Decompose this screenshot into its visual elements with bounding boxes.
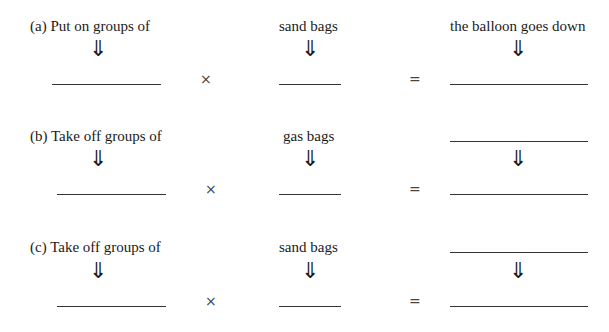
bags-answer-blank[interactable] (279, 306, 341, 307)
groups-answer-blank[interactable] (57, 306, 166, 307)
down-double-arrow-icon: ⇓ (83, 260, 113, 282)
down-double-arrow-icon: ⇓ (83, 38, 113, 60)
result-answer-blank[interactable] (450, 194, 588, 195)
problem-row-b: (b) Take off groups of ⇓ × gas bags ⇓ = … (0, 110, 609, 220)
problem-prefix: (a) (30, 18, 47, 34)
equals-symbol: = (409, 181, 421, 197)
problem-row-a: (a) Put on groups of ⇓ × sand bags ⇓ = t… (0, 0, 609, 110)
down-double-arrow-icon: ⇓ (83, 148, 113, 170)
result-label: the balloon goes down (450, 17, 585, 35)
groups-label: (a) Put on groups of (30, 17, 150, 35)
equals-symbol: = (409, 293, 421, 309)
result-answer-blank[interactable] (450, 84, 588, 85)
problem-row-c: (c) Take off groups of ⇓ × sand bags ⇓ =… (0, 220, 609, 330)
down-double-arrow-icon: ⇓ (503, 260, 533, 282)
times-symbol: × (200, 71, 212, 87)
groups-text: Take off groups of (50, 239, 161, 255)
result-description-blank[interactable] (450, 141, 588, 142)
down-double-arrow-icon: ⇓ (295, 38, 325, 60)
equals-symbol: = (409, 71, 421, 87)
bags-label: sand bags (279, 17, 338, 35)
problem-prefix: (b) (30, 128, 48, 144)
groups-text: Put on groups of (50, 18, 150, 34)
bags-label: gas bags (283, 127, 334, 145)
times-symbol: × (205, 181, 217, 197)
result-answer-blank[interactable] (450, 306, 588, 307)
down-double-arrow-icon: ⇓ (295, 148, 325, 170)
down-double-arrow-icon: ⇓ (503, 38, 533, 60)
bags-answer-blank[interactable] (279, 84, 341, 85)
groups-answer-blank[interactable] (52, 84, 161, 85)
down-double-arrow-icon: ⇓ (295, 260, 325, 282)
problem-prefix: (c) (30, 239, 47, 255)
result-description-blank[interactable] (450, 252, 588, 253)
groups-text: Take off groups of (51, 128, 162, 144)
times-symbol: × (205, 293, 217, 309)
bags-answer-blank[interactable] (279, 194, 341, 195)
groups-label: (b) Take off groups of (30, 127, 162, 145)
groups-label: (c) Take off groups of (30, 238, 161, 256)
down-double-arrow-icon: ⇓ (503, 148, 533, 170)
groups-answer-blank[interactable] (57, 194, 166, 195)
bags-label: sand bags (279, 238, 338, 256)
